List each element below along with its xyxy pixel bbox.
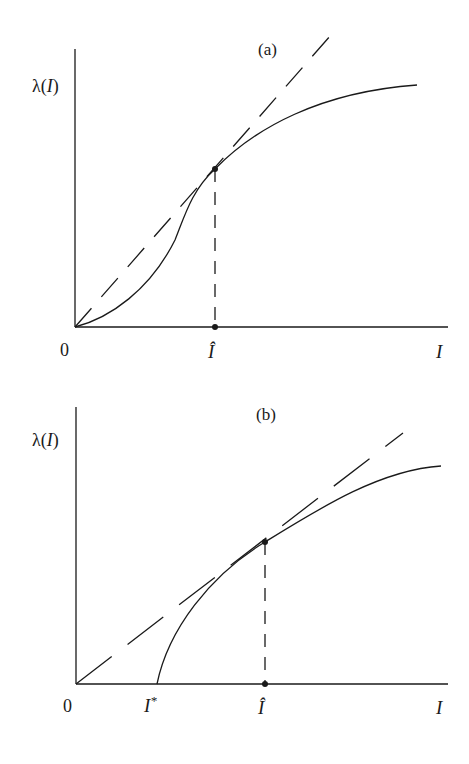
origin-label-a: 0 [60,340,69,360]
ihat-label-a: Î [207,341,216,362]
tangent-point-b [262,539,268,545]
lambda-curve-b [157,466,441,684]
panel-b: (b) λ(I) 0 I* Î I [32,405,448,718]
figure: (a) λ(I) 0 Î I (b) λ(I) 0 I* Î I [0,0,469,764]
ihat-point-a [212,324,218,330]
x-axis-label-a: I [435,341,444,362]
y-axis-label-b: λ(I) [32,430,59,451]
y-axis-label-a: λ(I) [32,76,59,97]
lambda-curve-a [75,85,417,327]
lambda-symbol: λ( [32,76,47,97]
istar-superscript: * [150,693,157,708]
ihat-point-b [262,681,268,687]
tangent-ray-b [76,433,403,684]
tangent-point-a [212,166,218,172]
y-label-close: ) [53,430,59,451]
panel-title-a: (a) [258,40,277,59]
x-axis-label-b: I [435,697,444,718]
origin-label-b: 0 [63,696,72,716]
istar-label-b: I* [143,693,157,716]
lambda-symbol: λ( [32,430,47,451]
ihat-label-b: Î [257,697,266,718]
panel-a: (a) λ(I) 0 Î I [32,27,448,362]
y-label-close: ) [53,76,59,97]
panel-title-b: (b) [256,405,276,424]
